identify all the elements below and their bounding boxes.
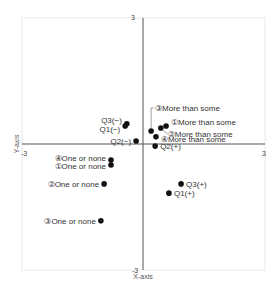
point-label: ②One or none bbox=[48, 180, 100, 189]
point-marker bbox=[101, 181, 107, 187]
data-point: Q2(−) bbox=[110, 137, 138, 146]
data-point: ①More than some bbox=[163, 118, 236, 129]
point-label: Q3(+) bbox=[186, 180, 207, 189]
x-max-tick: 3 bbox=[262, 150, 266, 157]
point-marker bbox=[122, 123, 128, 129]
point-marker bbox=[148, 128, 154, 134]
data-point: ③One or none bbox=[44, 217, 103, 226]
point-marker bbox=[166, 190, 172, 196]
point-marker bbox=[163, 123, 169, 129]
point-label: Q2(+) bbox=[160, 142, 181, 151]
point-marker bbox=[133, 138, 139, 144]
point-marker bbox=[178, 181, 184, 187]
leader-line bbox=[151, 108, 154, 128]
point-label: ①One or none bbox=[55, 162, 107, 171]
data-point: Q1(−) bbox=[100, 123, 128, 134]
point-marker bbox=[98, 218, 104, 224]
point-marker bbox=[153, 134, 159, 140]
x-min-tick: -3 bbox=[21, 150, 27, 157]
point-marker bbox=[152, 143, 158, 149]
point-label: ③More than some bbox=[155, 104, 220, 113]
point-label: Q1(−) bbox=[100, 125, 121, 134]
point-label: Q3(−) bbox=[101, 116, 122, 125]
scatter-chart: 3 -3 -3 3 X-axis Y-axis Q3(−)Q1(−)Q2(−)③… bbox=[0, 0, 279, 292]
point-marker bbox=[108, 162, 114, 168]
point-label: ③One or none bbox=[44, 217, 96, 226]
y-max-tick: 3 bbox=[131, 14, 135, 21]
point-label: Q2(−) bbox=[110, 137, 131, 146]
data-points: Q3(−)Q1(−)Q2(−)③More than some①More than… bbox=[44, 104, 236, 226]
x-axis-title: X-axis bbox=[133, 273, 153, 280]
point-label: Q1(+) bbox=[174, 189, 195, 198]
point-marker bbox=[158, 125, 164, 131]
data-point: ②One or none bbox=[48, 180, 107, 189]
data-point: Q3(+) bbox=[178, 180, 207, 189]
y-axis-title: Y-axis bbox=[13, 134, 20, 153]
data-point: ①One or none bbox=[55, 162, 114, 171]
point-marker bbox=[108, 157, 114, 163]
data-point: Q2(+) bbox=[152, 142, 181, 151]
data-point: Q1(+) bbox=[166, 189, 195, 198]
point-label: ①More than some bbox=[171, 118, 236, 127]
